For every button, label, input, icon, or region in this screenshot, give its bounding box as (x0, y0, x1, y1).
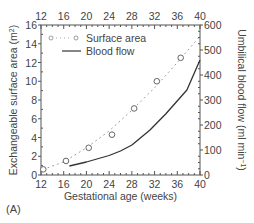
x-tick-label-bottom: 36 (171, 178, 183, 190)
legend-label-blood-flow: Blood flow (86, 45, 135, 57)
chart: 1212161620202424282832323636404002468101… (0, 0, 254, 223)
y-tick-label-left: 10 (25, 75, 37, 87)
y-tick-label-right: 200 (204, 119, 222, 131)
x-tick-label-bottom: 24 (103, 178, 115, 190)
y-tick-label-left: 12 (25, 57, 37, 69)
y-tick-label-right: 400 (204, 69, 222, 81)
surface-area-marker (178, 55, 184, 61)
y-axis-title-left: Exchangeable surface area (m2) (7, 25, 19, 175)
x-tick-label-bottom: 20 (81, 178, 93, 190)
x-tick-label-top: 28 (126, 10, 138, 22)
superscript: −1 (241, 159, 248, 167)
y-axis-title-right: Umbilical blood flow (ml min−1) (236, 29, 248, 171)
y-tick-label-left: 8 (31, 94, 37, 106)
y-tick-label-right: 500 (204, 44, 222, 56)
closing-paren: ) (7, 25, 19, 29)
x-tick-label-bottom: 16 (58, 178, 70, 190)
plot-series (40, 38, 200, 172)
y-tick-label-right: 300 (204, 94, 222, 106)
surface-area-marker (63, 158, 69, 164)
x-tick-label-top: 36 (171, 10, 183, 22)
y-tick-label-left: 4 (31, 132, 37, 144)
surface-area-marker (154, 78, 160, 84)
y-tick-label-left: 6 (31, 113, 37, 125)
y-tick-label-right: 600 (204, 19, 222, 31)
y-tick-label-right: 100 (204, 144, 222, 156)
x-tick-label-bottom: 32 (149, 178, 161, 190)
x-tick-label-top: 16 (58, 10, 70, 22)
surface-area-marker (86, 145, 92, 151)
panel-label: (A) (6, 203, 21, 215)
y-tick-label-left: 2 (31, 150, 37, 162)
y-tick-label-right: 0 (204, 169, 210, 181)
y-tick-label-left: 0 (31, 169, 37, 181)
surface-area-marker (40, 167, 46, 173)
x-tick-label-top: 20 (81, 10, 93, 22)
x-tick-label-top: 32 (149, 10, 161, 22)
legend-label-surface-area: Surface area (86, 32, 146, 44)
legend: Surface areaBlood flow (49, 32, 146, 57)
y-tick-label-left: 14 (25, 38, 37, 50)
surface-area-marker (109, 132, 115, 138)
surface-area-marker (131, 106, 137, 112)
x-tick-label-bottom: 28 (126, 178, 138, 190)
closing-paren: ) (236, 167, 248, 171)
x-tick-label-top: 24 (103, 10, 115, 22)
legend-surface-area-marker (74, 36, 78, 40)
x-axis-title: Gestational age (weeks) (64, 190, 177, 202)
legend-surface-area-marker (49, 36, 53, 40)
y-tick-label-left: 16 (25, 19, 37, 31)
